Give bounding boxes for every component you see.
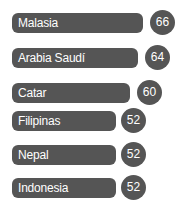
value-badge: 66	[150, 10, 175, 35]
value-badge: 60	[137, 80, 162, 105]
chart-row: Filipinas 52	[0, 108, 180, 134]
chart-row: Arabia Saudí 64	[0, 45, 180, 71]
bar-label: Catar	[12, 83, 130, 103]
bar-label: Malasia	[12, 13, 143, 33]
chart-row: Indonesia 52	[0, 175, 180, 201]
value-badge: 52	[121, 142, 146, 167]
bar-label: Indonesia	[12, 178, 116, 198]
bar-label: Arabia Saudí	[12, 48, 138, 68]
chart-row: Malasia 66	[0, 10, 180, 36]
bar-label: Filipinas	[12, 111, 116, 131]
value-badge: 52	[121, 175, 146, 200]
chart-row: Nepal 52	[0, 142, 180, 168]
value-badge: 64	[145, 45, 170, 70]
bar-label: Nepal	[12, 145, 116, 165]
value-badge: 52	[121, 108, 146, 133]
chart-row: Catar 60	[0, 79, 180, 105]
